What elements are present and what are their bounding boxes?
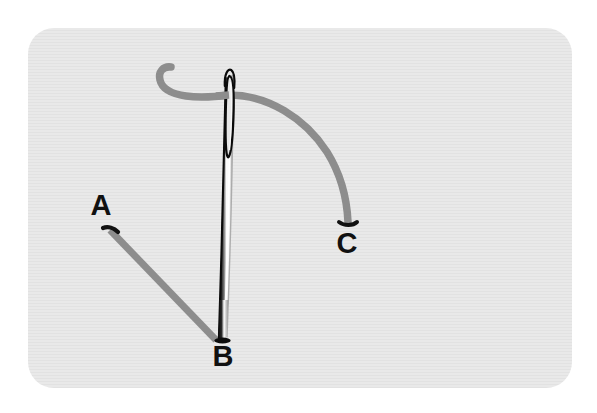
label-B: B — [213, 340, 234, 372]
figure-root: A B C — [0, 0, 597, 413]
label-C: C — [337, 227, 358, 259]
label-A: A — [91, 189, 112, 221]
illustration-panel: A B C — [0, 0, 597, 413]
thread-crossing-front — [216, 95, 229, 96]
needle-eye — [226, 76, 234, 157]
needle-thread-illustration: A B C — [0, 0, 597, 413]
